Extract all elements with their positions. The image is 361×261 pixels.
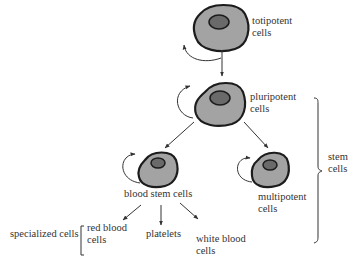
white-blood-label: white blood cells xyxy=(196,233,246,257)
multipotent-cell xyxy=(252,153,289,187)
totipotent-label: totipotent cells xyxy=(252,15,292,39)
pluripotent-label: pluripotent cells xyxy=(250,91,296,115)
stem-cells-brace xyxy=(314,98,322,243)
platelets-label: platelets xyxy=(146,228,181,240)
totipotent-cell xyxy=(194,5,248,51)
arrow-to-white-blood xyxy=(180,203,198,219)
stem-cell-hierarchy-diagram: totipotent cells pluripotent cells multi… xyxy=(0,0,361,261)
multipotent-label: multipotent cells xyxy=(258,191,306,215)
self-renewal-arrow xyxy=(238,158,253,182)
specialized-cells-bracket xyxy=(81,226,84,255)
self-renewal-arrow xyxy=(177,86,193,118)
self-renewal-arrow xyxy=(123,154,140,183)
pluripotent-cell xyxy=(195,83,245,126)
diagram-graphics xyxy=(0,0,361,261)
blood-stem-cell xyxy=(138,153,177,188)
arrow-pluripotent-to-multipotent xyxy=(244,122,268,148)
stem-cells-label: stem cells xyxy=(328,151,348,175)
arrow-to-red-blood xyxy=(123,205,141,220)
blood-stem-label: blood stem cells xyxy=(124,188,192,200)
specialized-cells-label: specialized cells xyxy=(10,228,79,240)
arrow-pluripotent-to-blood-stem xyxy=(165,122,194,148)
red-blood-label: red blood cells xyxy=(87,222,127,246)
